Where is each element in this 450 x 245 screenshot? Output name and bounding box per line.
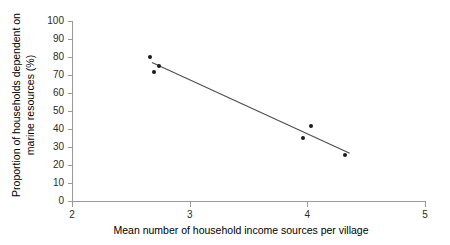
y-tick-label: 20 [24,160,64,170]
y-tick-label: 10 [24,178,64,188]
x-tick-mark [425,202,426,207]
y-tick-label: 90 [24,34,64,44]
y-tick-label: 30 [24,142,64,152]
x-tick-label: 4 [292,210,322,220]
y-tick-label: 40 [24,124,64,134]
y-tick-label: 100 [24,16,64,26]
y-tick-label: 70 [24,70,64,80]
x-tick-mark [307,202,308,207]
x-axis-title: Mean number of household income sources … [46,224,436,236]
x-tick-mark [72,202,73,207]
chart-figure: Proportion of households dependent on ma… [0,0,450,245]
y-tick-label: 80 [24,52,64,62]
y-tick-label: 60 [24,88,64,98]
x-tick-label: 3 [175,210,205,220]
x-tick-label: 5 [410,210,440,220]
data-point [148,55,152,59]
x-tick-mark [190,202,191,207]
plot-area: 0102030405060708090100 2345 [72,21,425,201]
y-tick-label: 0 [24,196,64,206]
x-tick-label: 2 [57,210,87,220]
trendline [72,21,425,202]
y-tick-label: 50 [24,106,64,116]
y-axis-title-line1: Proportion of households dependent on [9,13,23,197]
